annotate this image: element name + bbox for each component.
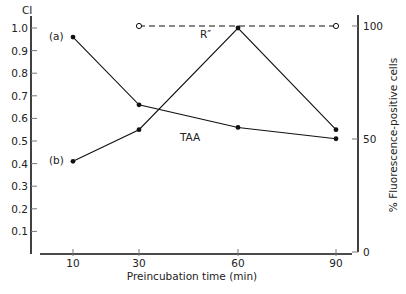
left-y-tick-label: 0.4 [11, 158, 28, 170]
data-point-a [137, 102, 142, 107]
right-y-tick-label: 50 [363, 133, 376, 145]
taa-label: TAA [179, 131, 201, 143]
series-layer [71, 23, 339, 163]
left-y-axis-label: CI [22, 4, 32, 16]
data-point-b [71, 159, 76, 164]
right-y-tick-label: 0 [363, 246, 370, 258]
left-y-tick-label: 1.0 [11, 22, 28, 34]
x-tick-label: 90 [329, 257, 342, 269]
data-point-r [136, 23, 141, 28]
left-y-tick-label: 0.1 [11, 225, 28, 237]
x-tick-label: 30 [132, 257, 145, 269]
x-tick-label: 10 [66, 257, 79, 269]
data-point-b [334, 127, 339, 132]
ticks: 0.10.20.30.40.50.60.70.80.91.01030609005… [11, 20, 383, 269]
left-y-tick-label: 0.9 [11, 45, 28, 57]
series-b-label: (b) [49, 154, 64, 166]
left-y-tick-label: 0.2 [11, 203, 28, 215]
data-point-b [137, 127, 142, 132]
left-y-tick-label: 0.8 [11, 67, 28, 79]
series-line-a [73, 37, 336, 139]
labels: CI Preincubation time (min) % Fluorescen… [22, 4, 399, 282]
right-y-axis-label: % Fluorescence-positive cells [387, 58, 399, 212]
left-y-tick-label: 0.6 [11, 112, 28, 124]
r-double-prime-label: R″ [200, 28, 211, 40]
left-y-tick-label: 0.5 [11, 135, 28, 147]
data-point-a [334, 136, 339, 141]
right-y-tick-label: 100 [363, 20, 383, 32]
x-tick-label: 60 [231, 257, 244, 269]
data-point-a [236, 125, 241, 130]
left-y-tick-label: 0.3 [11, 180, 28, 192]
series-line-b [73, 28, 336, 161]
left-y-tick-label: 0.7 [11, 90, 28, 102]
data-point-a [71, 35, 76, 40]
x-axis-label: Preincubation time (min) [127, 270, 257, 282]
chart: 0.10.20.30.40.50.60.70.80.91.01030609005… [0, 0, 406, 294]
data-point-r [333, 23, 338, 28]
series-a-label: (a) [49, 30, 64, 42]
